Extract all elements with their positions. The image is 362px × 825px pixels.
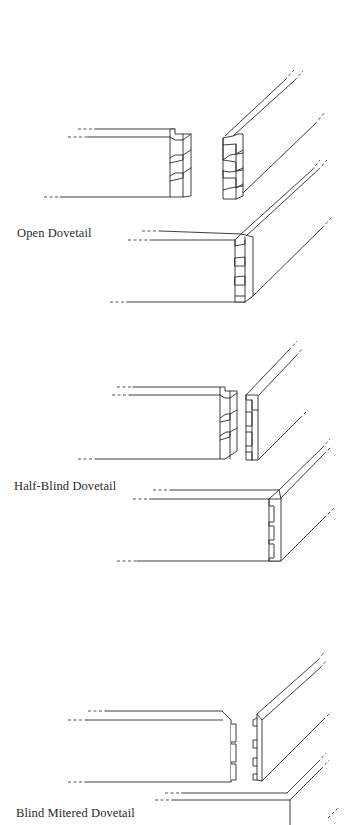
blind-mitered-pin-board <box>253 651 331 781</box>
half-blind-dovetail-label: Half-Blind Dovetail <box>14 479 116 494</box>
open-dovetail-assembled <box>110 160 332 302</box>
blind-mitered-dovetail-assembled <box>155 753 338 825</box>
open-tail-board <box>44 129 191 197</box>
blind-mitered-dovetail-exploded <box>68 651 331 782</box>
half-blind-tail-board <box>78 387 237 459</box>
dovetail-joints-diagram <box>0 0 362 825</box>
open-dovetail-exploded <box>44 70 325 199</box>
blind-mitered-dovetail-label: Blind Mitered Dovetail <box>16 806 135 821</box>
half-blind-dovetail-exploded <box>78 341 308 460</box>
half-blind-pin-board <box>246 341 308 460</box>
open-pin-board <box>223 70 325 199</box>
open-dovetail-label: Open Dovetail <box>17 226 92 241</box>
blind-mitered-tail-board <box>68 711 236 782</box>
